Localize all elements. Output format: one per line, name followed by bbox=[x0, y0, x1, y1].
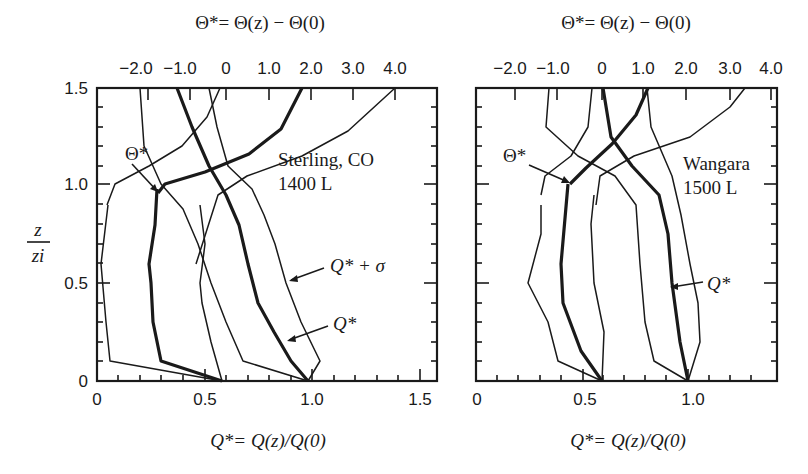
right-bottom-tick: 0 bbox=[472, 390, 481, 409]
left-curves bbox=[101, 88, 395, 381]
left-top-tick: 4.0 bbox=[383, 59, 407, 78]
left-top-tick: 0 bbox=[221, 59, 230, 78]
right-bottom-axis-title: Q*= Q(z)/Q(0) bbox=[570, 430, 686, 452]
y-axis-label-denominator: zi bbox=[31, 245, 45, 266]
right-q-plus-sigma-curve bbox=[647, 88, 700, 381]
right-bottom-ticks bbox=[497, 369, 751, 381]
y-tick: 0.5 bbox=[64, 274, 88, 293]
left-top-tick: 1.0 bbox=[257, 59, 281, 78]
left-bottom-axis-title: Q*= Q(z)/Q(0) bbox=[210, 430, 326, 452]
left-plot-frame bbox=[97, 88, 437, 381]
right-top-axis-title: Θ*= Θ(z) − Θ(0) bbox=[561, 12, 691, 34]
right-site-label: Wangara bbox=[683, 153, 751, 174]
left-bottom-tick: 0.5 bbox=[193, 390, 217, 409]
left-bottom-tick: 1.0 bbox=[300, 390, 324, 409]
right-q-star-curve bbox=[603, 88, 688, 381]
right-top-tick: −2.0 bbox=[493, 59, 527, 78]
left-site-label: Sterling, CO bbox=[278, 149, 374, 170]
y-tick: 1.5 bbox=[64, 79, 88, 98]
left-top-tick: 2.0 bbox=[299, 59, 323, 78]
left-top-tick: −2.0 bbox=[119, 59, 153, 78]
right-q-inner-high-curve bbox=[591, 195, 604, 381]
left-q-plus-sigma-curve bbox=[209, 88, 320, 381]
left-q-plus-sigma-arrowhead bbox=[289, 275, 298, 282]
y-tick: 1.0 bbox=[64, 175, 88, 194]
right-top-tick: 3.0 bbox=[718, 59, 742, 78]
left-top-tick: −1.0 bbox=[163, 59, 197, 78]
y-axis-label-numerator: z bbox=[33, 219, 42, 240]
figure: Θ*= Θ(z) − Θ(0) −2.0 −1.0 0 1.0 2.0 3.0 … bbox=[0, 0, 808, 474]
right-top-tick: −1.0 bbox=[536, 59, 570, 78]
right-q-inner-curve bbox=[561, 184, 602, 381]
left-bottom-tick: 1.5 bbox=[408, 390, 432, 409]
left-q-inner-high-curve bbox=[200, 205, 222, 381]
left-theta-star-label: Θ* bbox=[125, 143, 148, 164]
left-panel: Θ*= Θ(z) − Θ(0) −2.0 −1.0 0 1.0 2.0 3.0 … bbox=[27, 12, 437, 452]
right-panel: Θ*= Θ(z) − Θ(0) −2.0 −1.0 0 1.0 2.0 3.0 … bbox=[472, 12, 783, 452]
right-bottom-tick: 0.5 bbox=[573, 390, 597, 409]
left-q-minus-sigma-curve bbox=[140, 88, 308, 381]
right-top-tick: 2.0 bbox=[674, 59, 698, 78]
left-top-ticks bbox=[148, 88, 395, 100]
left-bottom-tick: 0 bbox=[92, 390, 101, 409]
right-curves bbox=[528, 88, 745, 381]
right-top-tick: 0 bbox=[597, 59, 606, 78]
y-tick: 0 bbox=[79, 372, 88, 391]
left-q-plus-sigma-label: Q* + σ bbox=[330, 255, 386, 276]
right-top-tick: 1.0 bbox=[631, 59, 655, 78]
left-top-tick: 3.0 bbox=[341, 59, 365, 78]
right-time-label: 1500 L bbox=[683, 177, 737, 198]
left-q-star-arrowhead bbox=[287, 335, 296, 342]
right-theta-star-label: Θ* bbox=[503, 145, 526, 166]
right-top-tick: 4.0 bbox=[759, 59, 783, 78]
left-time-label: 1400 L bbox=[278, 173, 332, 194]
left-top-axis-title: Θ*= Θ(z) − Θ(0) bbox=[195, 12, 325, 34]
right-plot-frame bbox=[476, 88, 777, 381]
right-theta-arrow bbox=[529, 165, 568, 182]
left-q-star-label: Q* bbox=[333, 313, 357, 334]
right-q-star-label: Q* bbox=[707, 273, 731, 294]
left-q-star-curve bbox=[177, 88, 308, 381]
right-bottom-tick: 1.0 bbox=[681, 390, 705, 409]
